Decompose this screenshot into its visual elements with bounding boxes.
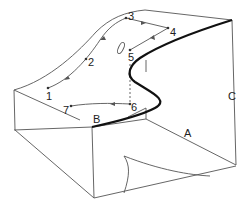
point-3-label: 3 [128,10,134,22]
point-7-label: 7 [63,104,69,116]
fold-edge [92,20,232,127]
point-6-label: 6 [131,101,137,113]
trajectory-loop [116,42,126,55]
trajectory-1-3 [48,18,126,88]
box-bottom-right [94,166,236,198]
point-4-label: 4 [170,26,176,38]
box-top-left [14,127,92,130]
box-front-vertical [92,127,94,198]
axis-b-label: B [93,113,100,125]
box-bottom-left [15,130,94,198]
trajectory-6-7 [71,103,130,106]
cusp-catastrophe-diagram: 1 2 3 4 5 6 7 A B C [0,0,248,210]
axis-c-label: C [228,90,236,102]
point-1-label: 1 [46,90,52,102]
point-5-label: 5 [128,51,134,63]
cusp-curve-left [124,156,129,193]
box-left-edge [14,90,15,130]
axis-a-label: A [184,127,192,139]
point-2-label: 2 [88,56,94,68]
cusp-curve-upper [124,156,210,176]
arrow-icons [64,21,155,106]
axis-a-line [146,119,236,165]
